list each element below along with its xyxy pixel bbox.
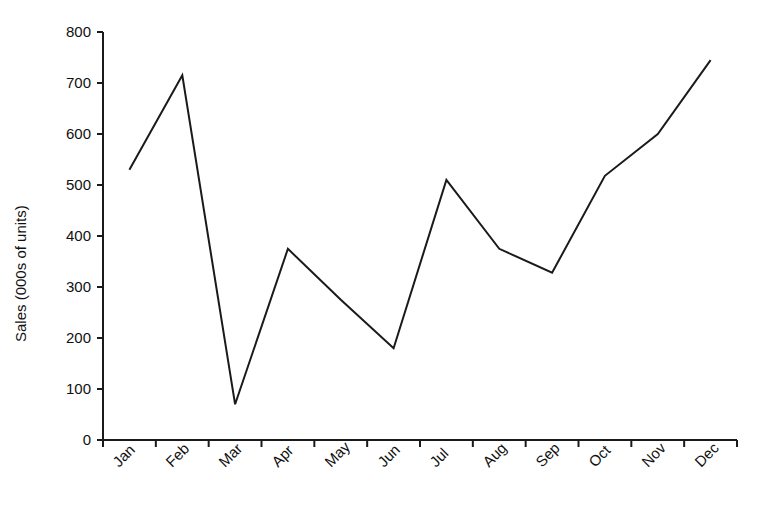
y-axis-tick-label: 300	[45, 279, 91, 294]
y-axis-tick-label: 800	[45, 24, 91, 39]
line-chart: 0100200300400500600700800 JanFebMarAprMa…	[0, 0, 774, 519]
y-axis-tick-label: 100	[45, 381, 91, 396]
x-axis-ticks	[103, 440, 737, 447]
y-axis-title: Sales (000s of units)	[12, 142, 29, 342]
y-axis-tick-label: 500	[45, 177, 91, 192]
y-axis-tick-label: 400	[45, 228, 91, 243]
y-axis-tick-label: 700	[45, 75, 91, 90]
data-series-line	[129, 60, 710, 404]
y-axis-tick-label: 0	[45, 432, 91, 447]
y-axis-tick-label: 600	[45, 126, 91, 141]
y-axis-tick-label: 200	[45, 330, 91, 345]
